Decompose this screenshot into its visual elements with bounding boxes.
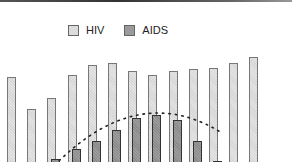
aids-trendline: [0, 0, 292, 162]
